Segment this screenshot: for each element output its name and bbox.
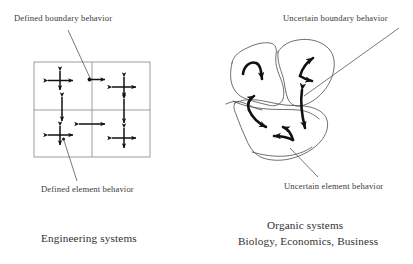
cross-arrow-8 bbox=[112, 128, 136, 148]
label-defined-element-behavior: Defined element behavior bbox=[41, 184, 134, 194]
caption-organic-systems-domains: Biology, Economics, Business bbox=[238, 235, 378, 247]
organic-blobs bbox=[226, 28, 399, 177]
blob-outlines bbox=[226, 39, 334, 160]
caption-engineering-systems: Engineering systems bbox=[41, 232, 137, 244]
organic-element-arrows bbox=[243, 58, 313, 140]
leader-lines-right bbox=[290, 28, 399, 177]
label-defined-boundary-behavior: Defined boundary behavior bbox=[14, 13, 112, 23]
curve-arrow-2b bbox=[300, 76, 312, 81]
cross-arrow-7 bbox=[48, 126, 73, 145]
blob-top-right bbox=[278, 39, 334, 106]
label-uncertain-boundary-behavior: Uncertain boundary behavior bbox=[283, 13, 388, 23]
engineering-grid bbox=[34, 30, 150, 181]
curve-arrow-5b bbox=[274, 136, 293, 140]
cross-arrow-1 bbox=[48, 71, 73, 90]
concept-diagram-canvas bbox=[0, 0, 413, 264]
leader-uncertain-boundary bbox=[304, 28, 399, 96]
curve-arrow-3b bbox=[249, 110, 266, 127]
blob-seam-3 bbox=[252, 147, 312, 156]
leader-lines-left bbox=[64, 30, 91, 181]
curve-arrow-2a bbox=[300, 58, 313, 76]
caption-organic-systems: Organic systems bbox=[267, 219, 343, 231]
leader-defined-element-dot bbox=[62, 137, 65, 140]
curve-arrow-1 bbox=[243, 63, 262, 79]
curve-arrow-3a bbox=[248, 96, 254, 110]
leader-uncertain-element bbox=[290, 148, 318, 177]
leader-defined-boundary bbox=[68, 30, 91, 79]
leader-defined-element bbox=[64, 139, 78, 181]
blob-seam-2 bbox=[226, 102, 262, 110]
blob-top-left bbox=[231, 43, 284, 106]
label-uncertain-element-behavior: Uncertain element behavior bbox=[284, 181, 383, 191]
grid-outline bbox=[34, 62, 150, 157]
cross-arrow-3 bbox=[112, 77, 136, 97]
